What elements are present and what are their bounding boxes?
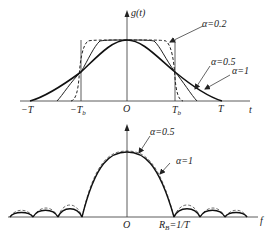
top-ylabel: g(t) — [131, 7, 146, 19]
spectrum-alpha-1 — [10, 152, 247, 217]
tick-t: T — [218, 103, 225, 114]
top-chart: g(t) α=0.2 α=0.5 α=1 −T −Tb O Tb T t — [20, 7, 252, 117]
bottom-y-arrow-icon — [125, 124, 130, 131]
tick-rb: RB=1/T — [158, 219, 191, 232]
label-spectrum-alpha-1: α=1 — [176, 155, 193, 166]
leader-spectrum-alpha-1 — [160, 163, 170, 174]
tick-origin-top: O — [123, 103, 130, 114]
top-xlabel: t — [249, 104, 252, 115]
label-alpha-0.2: α=0.2 — [202, 18, 227, 29]
tick-neg-t: −T — [21, 104, 35, 115]
curve-alpha-1 — [30, 40, 222, 101]
leader-spectrum-alpha-0.5 — [139, 136, 150, 153]
leader-alpha-0.5 — [195, 66, 210, 89]
spectrum-alpha-0.5 — [10, 151, 247, 217]
tick-tb: Tb — [172, 104, 182, 117]
label-spectrum-alpha-0.5: α=0.5 — [150, 126, 175, 137]
tick-neg-tb: −Tb — [70, 104, 86, 117]
tick-origin-bottom: O — [123, 219, 130, 230]
figure: g(t) α=0.2 α=0.5 α=1 −T −Tb O Tb T t α=0… — [0, 0, 273, 240]
bottom-chart: α=0.5 α=1 O RB=1/T f — [8, 124, 264, 232]
label-alpha-1: α=1 — [232, 65, 249, 76]
leader-alpha-1 — [205, 75, 230, 89]
bottom-xlabel: f — [260, 215, 264, 226]
leader-alpha-0.2 — [170, 26, 203, 42]
top-y-arrow-icon — [125, 10, 130, 17]
